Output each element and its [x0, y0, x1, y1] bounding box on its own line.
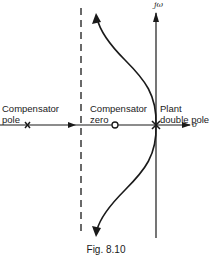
imaginary-axis-arrow-icon [153, 12, 159, 22]
locus-branch-lower [97, 125, 156, 230]
label-line: Compensator [90, 103, 147, 114]
jomega-axis-label: jω [154, 0, 163, 9]
label-line: double pole [160, 114, 209, 125]
locus-direction-arrow-icon [68, 122, 76, 128]
figure-caption: Fig. 8.10 [0, 244, 212, 255]
root-locus-plot [0, 0, 212, 258]
sigma-axis-label: σ [192, 120, 197, 129]
label-line: Plant [160, 103, 209, 114]
label-line: zero [90, 114, 147, 125]
compensator-zero-label: Compensator zero [90, 103, 147, 125]
plant-double-pole-label: Plant double pole [160, 103, 209, 125]
compensator-pole-label: Compensator pole [2, 103, 59, 125]
label-line: Compensator [2, 103, 59, 114]
locus-branch-lower-arrow-icon [92, 226, 101, 237]
label-line: pole [2, 114, 59, 125]
locus-branch-upper-arrow-icon [92, 13, 101, 24]
